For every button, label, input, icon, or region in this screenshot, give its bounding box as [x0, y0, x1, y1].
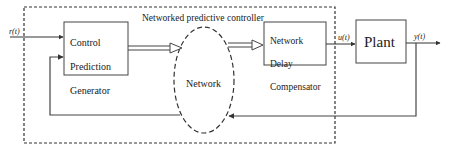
- cpg-label: Control Prediction Generator: [70, 25, 111, 109]
- ndc-label-line3: Compensator: [270, 82, 321, 94]
- reference-label: r(t): [9, 26, 20, 37]
- networked-control-diagram: r(t) Networked predictive controller Con…: [0, 0, 450, 150]
- cpg-label-line1: Control: [70, 37, 111, 49]
- controller-title: Networked predictive controller: [142, 13, 264, 24]
- network-label: Network: [186, 78, 221, 89]
- ndc-label: Network Delay Compensator: [270, 24, 321, 105]
- control-signal-label: u(t): [338, 32, 350, 43]
- ndc-label-line1: Network: [270, 36, 321, 48]
- network-to-ndc-arrow: [228, 40, 263, 50]
- cpg-to-network-arrow: [128, 43, 182, 53]
- cpg-label-line2: Prediction: [70, 61, 111, 73]
- cpg-label-line3: Generator: [70, 85, 111, 97]
- output-label: y(t): [414, 31, 425, 42]
- plant-label: Plant: [364, 34, 395, 50]
- ndc-label-line2: Delay: [270, 59, 321, 71]
